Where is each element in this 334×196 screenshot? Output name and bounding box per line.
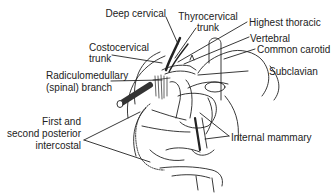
leader-subclavian bbox=[198, 71, 248, 75]
leader-intercostal-1 bbox=[84, 112, 140, 140]
label-intercostal-line2: second posterior bbox=[0, 128, 81, 139]
leader-internal-mammary-2 bbox=[205, 136, 229, 139]
label-intercostal-line3: intercostal bbox=[0, 140, 81, 151]
diagram-canvas: Deep cervical Thyrocervical trunk Highes… bbox=[0, 0, 334, 196]
label-thyrocervical-line1: Thyrocervical bbox=[176, 11, 240, 22]
label-thyrocervical-line2: trunk bbox=[176, 22, 240, 33]
label-radiculomedullary-line1: Radiculomedullary bbox=[46, 70, 128, 81]
label-costocervical-line1: Costocervical bbox=[89, 42, 149, 53]
label-deep-cervical: Deep cervical bbox=[96, 8, 166, 19]
leader-intercostal-2 bbox=[84, 140, 150, 162]
label-vertebral: Vertebral bbox=[250, 33, 290, 44]
artery-illustration bbox=[0, 0, 334, 196]
label-common-carotid: Common carotid bbox=[257, 44, 330, 55]
label-internal-mammary: Internal mammary bbox=[231, 132, 312, 143]
label-subclavian: Subclavian bbox=[269, 66, 318, 77]
label-highest-thoracic: Highest thoracic bbox=[249, 17, 321, 28]
label-intercostal-line1: First and bbox=[0, 116, 81, 127]
label-radiculomedullary-line2: (spinal) branch bbox=[46, 82, 112, 93]
label-costocervical-line2: trunk bbox=[89, 53, 111, 64]
